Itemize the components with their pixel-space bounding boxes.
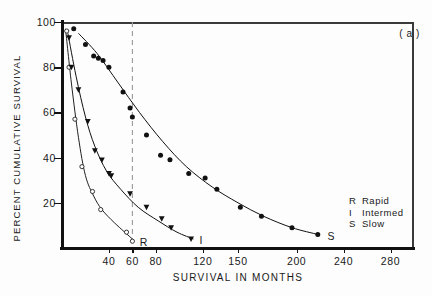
x-axis-label: SURVIVAL IN MONTHS xyxy=(173,272,303,283)
data-point-rapid-6 xyxy=(124,230,128,234)
data-point-slow-8 xyxy=(130,114,135,119)
data-point-rapid-5 xyxy=(99,207,103,211)
x-tick-label-80: 80 xyxy=(149,255,162,267)
x-tick-80 xyxy=(156,247,157,253)
data-point-slow-5 xyxy=(106,65,111,70)
fit-curve-intermed xyxy=(68,33,194,239)
data-point-intermed-5 xyxy=(99,157,105,163)
x-tick-label-120: 120 xyxy=(193,255,212,267)
data-point-slow-4 xyxy=(101,58,106,63)
data-point-slow-2 xyxy=(91,53,96,58)
y-tick-label-20: 20 xyxy=(43,197,56,209)
data-point-rapid-3 xyxy=(80,165,84,169)
data-point-rapid-7 xyxy=(130,239,134,243)
data-point-intermed-10 xyxy=(159,216,165,222)
data-point-slow-11 xyxy=(167,157,172,162)
x-tick-200 xyxy=(297,247,298,253)
x-tick-label-60: 60 xyxy=(126,255,139,267)
data-point-slow-10 xyxy=(158,153,163,158)
x-tick-label-150: 150 xyxy=(228,255,247,267)
legend-row-i: IIntermed xyxy=(349,207,404,219)
x-tick-150 xyxy=(238,247,239,253)
legend-symbol-s: S xyxy=(349,218,362,230)
x-tick-240 xyxy=(344,247,345,253)
data-point-intermed-9 xyxy=(144,205,150,211)
data-point-slow-9 xyxy=(144,133,149,138)
legend-row-s: SSlow xyxy=(349,218,404,230)
x-tick-label-40: 40 xyxy=(102,255,115,267)
data-point-slow-12 xyxy=(186,171,191,176)
legend-symbol-i: I xyxy=(349,207,362,219)
x-tick-40 xyxy=(109,247,110,253)
y-tick-label-40: 40 xyxy=(43,152,56,164)
curve-end-label-r: R xyxy=(140,236,148,248)
legend-label-i: Intermed xyxy=(362,207,404,219)
y-axis: 20406080100 xyxy=(61,20,64,250)
x-tick-label-280: 280 xyxy=(381,255,400,267)
legend-label-s: Slow xyxy=(362,218,404,230)
data-point-slow-1 xyxy=(83,42,88,47)
x-tick-120 xyxy=(203,247,204,253)
y-tick-label-100: 100 xyxy=(37,16,56,28)
x-tick-label-240: 240 xyxy=(334,255,353,267)
data-point-rapid-2 xyxy=(73,117,77,121)
y-tick-label-80: 80 xyxy=(43,61,56,73)
legend: RRapidIIntermedSSlow xyxy=(349,195,404,230)
y-axis-label: PERCENT CUMULATIVE SURVIVAL xyxy=(11,48,22,248)
legend-symbol-r: R xyxy=(349,195,362,207)
y-tick-label-60: 60 xyxy=(43,106,56,118)
data-point-slow-14 xyxy=(214,187,219,192)
data-point-slow-7 xyxy=(128,105,133,110)
data-point-slow-16 xyxy=(259,214,264,219)
data-point-slow-17 xyxy=(289,225,294,230)
curve-end-label-i: I xyxy=(200,234,203,246)
figure-panel: PERCENT CUMULATIVE SURVIVAL SURVIVAL IN … xyxy=(0,0,432,296)
legend-row-r: RRapid xyxy=(349,195,404,207)
x-axis: 406080120150200240280 xyxy=(60,247,415,250)
legend-label-r: Rapid xyxy=(362,195,404,207)
x-tick-60 xyxy=(132,247,133,253)
fit-curve-slow xyxy=(78,33,317,234)
data-point-slow-18 xyxy=(315,232,320,237)
data-point-rapid-0 xyxy=(65,29,69,33)
x-tick-label-200: 200 xyxy=(287,255,306,267)
legend-table: RRapidIIntermedSSlow xyxy=(349,195,404,230)
data-point-slow-15 xyxy=(238,205,243,210)
x-tick-280 xyxy=(391,247,392,253)
data-point-slow-6 xyxy=(121,90,126,95)
data-point-intermed-3 xyxy=(85,119,91,125)
data-point-slow-0 xyxy=(71,26,76,31)
curve-end-label-s: S xyxy=(327,230,334,242)
data-point-rapid-4 xyxy=(90,189,94,193)
data-point-slow-3 xyxy=(96,56,101,61)
data-point-intermed-2 xyxy=(76,87,82,93)
data-point-slow-13 xyxy=(203,175,208,180)
